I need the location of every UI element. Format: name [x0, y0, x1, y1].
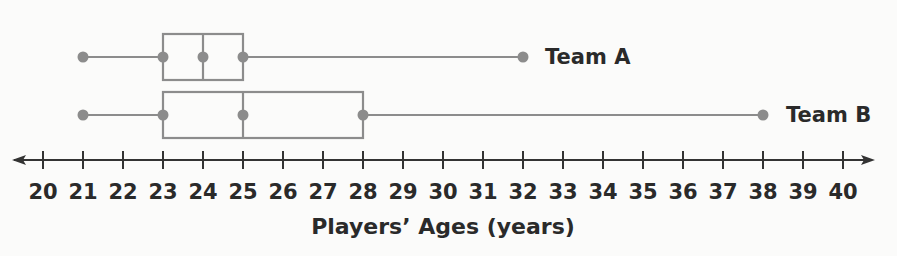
- max-point: [518, 52, 529, 63]
- tick-label: 25: [228, 180, 257, 204]
- tick-label: 20: [28, 180, 57, 204]
- min-point: [78, 110, 89, 121]
- x-axis-title: Players’ Ages (years): [311, 214, 575, 239]
- tick-label: 26: [268, 180, 297, 204]
- box-plot-team-b: [78, 92, 769, 138]
- tick-label: 40: [828, 180, 857, 204]
- tick-label: 23: [148, 180, 177, 204]
- min-point: [78, 52, 89, 63]
- tick-label: 35: [628, 180, 657, 204]
- tick-label: 27: [308, 180, 337, 204]
- iqr-box: [163, 92, 363, 138]
- tick-label: 30: [428, 180, 457, 204]
- tick-label: 28: [348, 180, 377, 204]
- tick-label: 21: [68, 180, 97, 204]
- box-plots: [78, 34, 769, 138]
- tick-label: 38: [748, 180, 777, 204]
- tick-label: 24: [188, 180, 217, 204]
- tick-label: 34: [588, 180, 617, 204]
- tick-label: 32: [508, 180, 537, 204]
- chart-canvas: 2021222324252627282930313233343536373839…: [0, 0, 897, 256]
- team-a-label: Team A: [545, 45, 631, 69]
- q1-point: [158, 110, 169, 121]
- tick-label: 22: [108, 180, 137, 204]
- q1-point: [158, 52, 169, 63]
- box-plot-chart: 2021222324252627282930313233343536373839…: [0, 0, 897, 256]
- median-point: [198, 52, 209, 63]
- q3-point: [238, 52, 249, 63]
- tick-label: 33: [548, 180, 577, 204]
- median-point: [238, 110, 249, 121]
- x-axis: 2021222324252627282930313233343536373839…: [12, 151, 875, 204]
- tick-label: 29: [388, 180, 417, 204]
- tick-label: 31: [468, 180, 497, 204]
- box-plot-team-a: [78, 34, 529, 80]
- q3-point: [358, 110, 369, 121]
- team-b-label: Team B: [786, 103, 871, 127]
- tick-label: 36: [668, 180, 697, 204]
- max-point: [758, 110, 769, 121]
- tick-label: 37: [708, 180, 737, 204]
- tick-label: 39: [788, 180, 817, 204]
